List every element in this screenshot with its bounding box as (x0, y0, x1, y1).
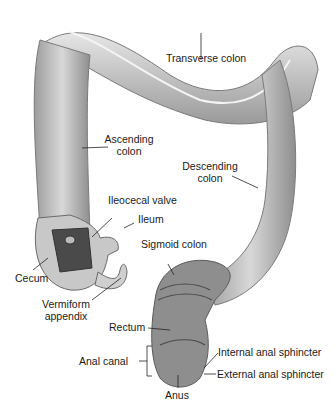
label-external-anal-sphincter: External anal sphincter (217, 368, 324, 380)
label-sigmoid-colon: Sigmoid colon (141, 238, 207, 250)
label-cecum: Cecum (15, 272, 48, 284)
label-ascending-colon: Ascending colon (104, 133, 154, 157)
label-internal-anal-sphincter: Internal anal sphincter (218, 346, 321, 358)
label-vermiform-appendix: Vermiform appendix (38, 298, 94, 322)
ascending-colon-shape (34, 40, 90, 235)
label-rectum: Rectum (109, 321, 145, 333)
label-descending-colon: Descending colon (180, 160, 240, 184)
label-ileum: Ileum (138, 213, 164, 225)
label-anus: Anus (165, 389, 189, 401)
label-transverse-colon: Transverse colon (166, 52, 246, 64)
label-ileocecal-valve: Ileocecal valve (108, 194, 177, 206)
label-anal-canal: Anal canal (79, 355, 128, 367)
